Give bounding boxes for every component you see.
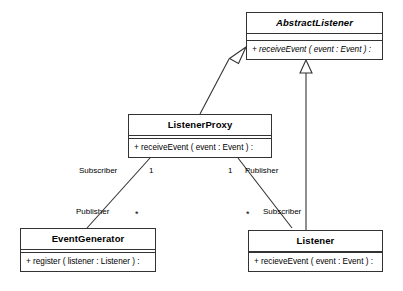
class-operation-listener-proxy: + receiveEvent ( event : Event ) : [129, 139, 271, 157]
class-operation-abstract-listener: + receiveEvent ( event : Event ) : [247, 41, 382, 59]
class-box-listener[interactable]: Listener + recieveEvent ( event : Event … [248, 230, 383, 272]
uml-class-diagram: AbstractListener + receiveEvent ( event … [0, 0, 403, 291]
generalization-arrowhead-proxy-to-abstract [230, 47, 247, 64]
multiplicity-label-star-lower-right: * [246, 210, 250, 219]
role-label-subscriber-lower-right: Subscriber [263, 208, 301, 216]
class-box-listener-proxy[interactable]: ListenerProxy + receiveEvent ( event : E… [128, 114, 272, 158]
class-operation-listener: + recieveEvent ( event : Event ) : [249, 253, 382, 271]
class-name-event-generator: EventGenerator [21, 229, 155, 250]
multiplicity-label-one-left: 1 [149, 167, 153, 175]
generalization-line-proxy-to-abstract [200, 59, 229, 114]
class-operation-event-generator: + register ( listener : Listener ) : [21, 253, 155, 271]
role-label-publisher-upper-right: Publisher [245, 167, 278, 175]
class-name-listener: Listener [249, 231, 382, 252]
multiplicity-label-star-lower-left: * [135, 210, 139, 219]
role-label-subscriber-upper-left: Subscriber [79, 167, 117, 175]
class-box-event-generator[interactable]: EventGenerator + register ( listener : L… [20, 228, 156, 272]
class-name-listener-proxy: ListenerProxy [129, 115, 271, 136]
multiplicity-label-one-right: 1 [228, 167, 232, 175]
class-box-abstract-listener[interactable]: AbstractListener + receiveEvent ( event … [246, 12, 383, 60]
role-label-publisher-lower-left: Publisher [76, 208, 109, 216]
class-attributes-abstract-listener [247, 34, 382, 41]
generalization-arrowhead-listener-to-abstract [300, 60, 312, 73]
class-name-abstract-listener: AbstractListener [247, 13, 382, 34]
